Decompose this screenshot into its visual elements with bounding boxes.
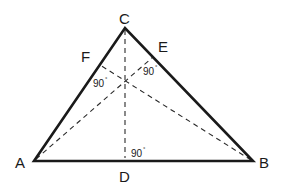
right-angle-label-d: 90 ° — [131, 146, 146, 159]
svg-text:90: 90 — [93, 78, 105, 89]
vertex-label-b: B — [259, 154, 269, 171]
vertex-label-a: A — [15, 154, 25, 171]
foot-label-f: F — [81, 48, 90, 65]
vertex-label-c: C — [119, 10, 130, 27]
svg-text:90: 90 — [131, 148, 143, 159]
foot-label-e: E — [158, 38, 168, 55]
right-angle-label-e: 90 ° — [143, 64, 158, 77]
svg-text:°: ° — [143, 146, 146, 152]
foot-label-d: D — [119, 168, 130, 185]
right-angle-label-f: 90 ° — [93, 76, 108, 89]
svg-text:°: ° — [155, 64, 158, 70]
triangle-altitudes-diagram: C A B D E F 90 ° 90 ° 90 ° — [0, 0, 281, 187]
svg-text:°: ° — [105, 76, 108, 82]
svg-text:90: 90 — [143, 66, 155, 77]
